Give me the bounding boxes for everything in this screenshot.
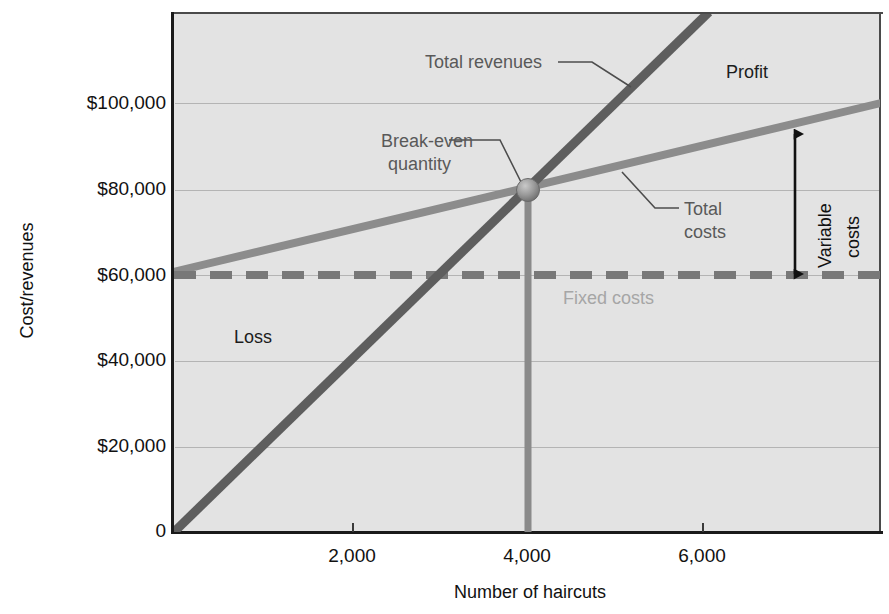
breakeven-chart: $100,000 $80,000 $60,000 $40,000 $20,000… [0, 0, 889, 614]
annotation-loss: Loss [234, 327, 272, 348]
annotation-profit: Profit [726, 62, 768, 83]
x-tick-label-2000: 2,000 [292, 545, 412, 567]
annotation-fixed-costs: Fixed costs [563, 288, 654, 309]
annotation-break-even-quantity: Break-even quantity [381, 130, 451, 176]
x-tick-label-4000: 4,000 [467, 545, 587, 567]
x-axis-title: Number of haircuts [430, 582, 630, 603]
break-even-line-1: Break-even [381, 130, 451, 153]
total-costs-line-1: Total [684, 198, 726, 221]
break-even-line-2: quantity [381, 153, 451, 176]
annotation-variable-costs-line-2: costs [843, 216, 864, 258]
total-costs-leader [622, 172, 679, 208]
annotation-total-revenues: Total revenues [425, 52, 542, 73]
breakeven-marker [517, 179, 540, 202]
y-axis-title: Cost/revenues [17, 201, 38, 361]
total-costs-line-2: costs [684, 221, 726, 244]
x-tick-label-6000: 6,000 [642, 545, 762, 567]
annotation-variable-costs-line-1: Variable [815, 203, 836, 268]
annotation-total-costs: Total costs [684, 198, 726, 244]
total-revenues-leader [558, 62, 631, 87]
